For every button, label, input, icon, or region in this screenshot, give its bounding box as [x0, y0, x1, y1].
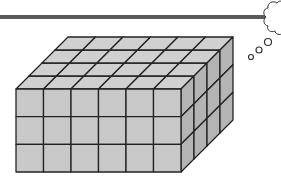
cube-prism-diagram: [0, 0, 281, 184]
thought-cloud-icon: [264, 1, 281, 34]
front-face-cube: [99, 144, 127, 172]
front-face-cube: [154, 89, 182, 117]
front-face-cube: [71, 144, 99, 172]
rectangular-prism: [16, 37, 233, 172]
front-face-cube: [126, 144, 154, 172]
front-face-cube: [126, 89, 154, 117]
front-face-cube: [71, 89, 99, 117]
front-face-cube: [16, 144, 44, 172]
thought-bubble-dot-small: [249, 55, 254, 60]
thought-bubble-dot-medium: [256, 47, 262, 53]
top-bar: [0, 15, 266, 19]
front-face-cube: [44, 117, 72, 145]
front-face-cube: [71, 117, 99, 145]
front-face-cube: [154, 144, 182, 172]
front-face-cube: [126, 117, 154, 145]
front-face-cube: [16, 117, 44, 145]
front-face-cube: [44, 144, 72, 172]
front-face-cube: [99, 89, 127, 117]
front-face-cube: [99, 117, 127, 145]
front-face-cube: [16, 89, 44, 117]
front-face-cube: [44, 89, 72, 117]
front-face-cube: [154, 117, 182, 145]
thought-bubble-dot-large: [265, 39, 272, 46]
